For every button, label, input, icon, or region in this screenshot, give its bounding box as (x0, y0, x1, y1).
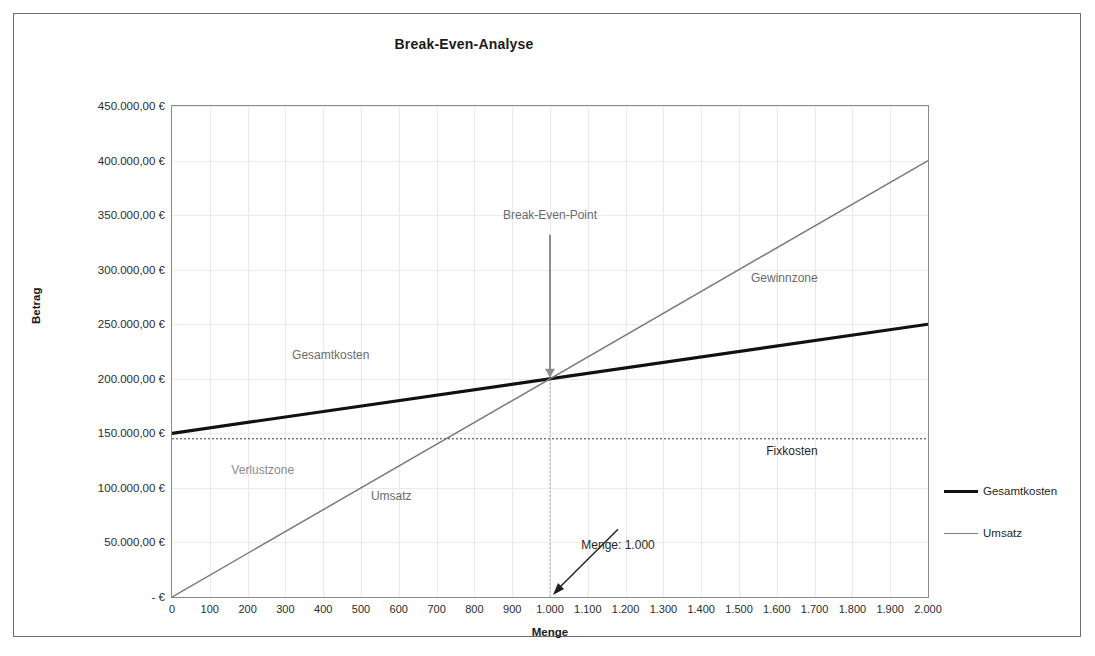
x-tick-label: 800 (465, 603, 483, 615)
series-layer (172, 106, 928, 597)
x-tick-label: 700 (427, 603, 445, 615)
x-tick-label: 1.900 (876, 603, 904, 615)
annotation-gesamtkosten-series-label: Gesamtkosten (292, 348, 369, 362)
x-tick-label: 1.600 (763, 603, 791, 615)
x-tick-label: 500 (352, 603, 370, 615)
y-tick-label: 200.000,00 € (53, 373, 165, 385)
x-tick-label: 300 (276, 603, 294, 615)
x-tick-label: 100 (201, 603, 219, 615)
y-axis-title: Betrag (30, 288, 42, 324)
x-tick-label: 0 (169, 603, 175, 615)
chart-legend: GesamtkostenUmsatz (944, 480, 1084, 564)
x-tick-label: 1.700 (801, 603, 829, 615)
annotation-gewinnzone: Gewinnzone (751, 271, 818, 285)
y-tick-label: 400.000,00 € (53, 155, 165, 167)
plot-area: Break-Even-PointGesamtkostenUmsatzGewinn… (171, 105, 929, 598)
y-tick-label: 300.000,00 € (53, 264, 165, 276)
x-tick-label: 1.400 (687, 603, 715, 615)
y-tick-label: 150.000,00 € (53, 427, 165, 439)
y-axis-tick-labels: - €50.000,00 €100.000,00 €150.000,00 €20… (47, 105, 165, 598)
y-tick-label: 250.000,00 € (53, 318, 165, 330)
legend-item-umsatz[interactable]: Umsatz (944, 522, 1084, 544)
legend-label: Gesamtkosten (983, 485, 1057, 497)
x-tick-label: 1.000 (536, 603, 564, 615)
x-tick-label: 1.300 (650, 603, 678, 615)
legend-label: Umsatz (983, 527, 1022, 539)
x-tick-label: 1.500 (725, 603, 753, 615)
y-tick-label: 50.000,00 € (53, 536, 165, 548)
x-axis-title: Menge (171, 626, 929, 638)
x-tick-label: 200 (238, 603, 256, 615)
legend-swatch-icon (944, 533, 978, 534)
screenshot-root: Break-Even-Analyse Betrag - €50.000,00 €… (0, 0, 1095, 656)
x-axis-tick-labels: 01002003004005006007008009001.0001.1001.… (171, 603, 929, 623)
x-tick-label: 1.200 (612, 603, 640, 615)
x-tick-label: 2.000 (914, 603, 942, 615)
y-tick-label: 450.000,00 € (53, 100, 165, 112)
plot-inner: Break-Even-PointGesamtkostenUmsatzGewinn… (172, 106, 928, 597)
y-tick-label: - € (53, 591, 165, 603)
annotation-break-even-point: Break-Even-Point (503, 208, 597, 222)
legend-item-gesamtkosten[interactable]: Gesamtkosten (944, 480, 1084, 502)
x-tick-label: 600 (390, 603, 408, 615)
annotation-menge-callout: Menge: 1.000 (581, 538, 654, 552)
y-tick-label: 350.000,00 € (53, 209, 165, 221)
x-tick-label: 400 (314, 603, 332, 615)
y-tick-label: 100.000,00 € (53, 482, 165, 494)
chart-frame: Break-Even-Analyse Betrag - €50.000,00 €… (13, 13, 1081, 637)
x-tick-label: 900 (503, 603, 521, 615)
annotation-fixkosten: Fixkosten (766, 444, 817, 458)
legend-swatch-icon (944, 490, 978, 493)
annotation-verlustzone: Verlustzone (231, 463, 294, 477)
x-tick-label: 1.100 (574, 603, 602, 615)
x-tick-label: 1.800 (839, 603, 867, 615)
annotation-umsatz-series-label: Umsatz (371, 489, 412, 503)
chart-title: Break-Even-Analyse (14, 36, 914, 52)
